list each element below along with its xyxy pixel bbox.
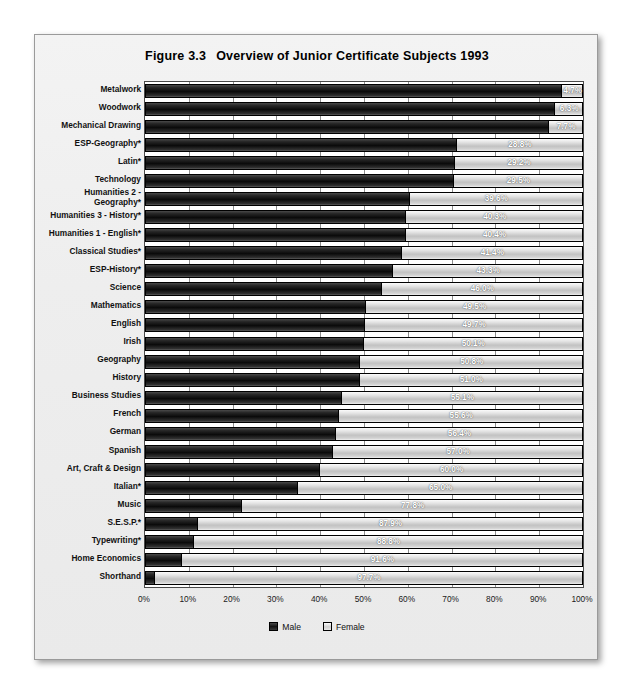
bar-segment-male[interactable] xyxy=(145,427,336,441)
bar-segment-male[interactable] xyxy=(145,156,455,170)
bar-segment-female[interactable] xyxy=(333,445,583,459)
bar-segment-male[interactable] xyxy=(145,210,406,224)
bar-segment-female[interactable] xyxy=(182,553,583,567)
bar-row[interactable]: 6.3% xyxy=(145,102,583,116)
bar-segment-male[interactable] xyxy=(145,120,549,134)
bar-segment-female[interactable] xyxy=(155,571,583,585)
bar-segment-male[interactable] xyxy=(145,481,298,495)
bar-segment-male[interactable] xyxy=(145,246,402,260)
axis-tick-label: 70% xyxy=(442,594,459,604)
bar-segment-female[interactable] xyxy=(402,246,583,260)
bar-row[interactable]: 91.6% xyxy=(145,553,583,567)
category-label: Latin* xyxy=(35,157,141,166)
bar-segment-female[interactable] xyxy=(406,210,583,224)
category-label: Classical Studies* xyxy=(35,247,141,256)
bar-row[interactable]: 7.7% xyxy=(145,120,583,134)
bar-segment-male[interactable] xyxy=(145,445,333,459)
bar-segment-male[interactable] xyxy=(145,84,562,98)
bar-segment-male[interactable] xyxy=(145,300,366,314)
bar-segment-male[interactable] xyxy=(145,318,365,332)
bar-segment-female[interactable] xyxy=(364,337,583,351)
bar-segment-male[interactable] xyxy=(145,571,155,585)
bar-segment-male[interactable] xyxy=(145,373,360,387)
bar-segment-female[interactable] xyxy=(320,463,583,477)
bar-row[interactable]: 49.5% xyxy=(145,300,583,314)
bar-row[interactable]: 88.8% xyxy=(145,535,583,549)
bar-segment-male[interactable] xyxy=(145,138,457,152)
bar-row[interactable]: 4.7% xyxy=(145,84,583,98)
bar-row[interactable]: 50.1% xyxy=(145,337,583,351)
bar-segment-male[interactable] xyxy=(145,499,242,513)
bar-row[interactable]: 77.8% xyxy=(145,499,583,513)
category-label: Business Studies xyxy=(35,391,141,400)
bar-segment-female[interactable] xyxy=(562,84,583,98)
bar-segment-female[interactable] xyxy=(360,373,583,387)
bar-row[interactable]: 87.9% xyxy=(145,517,583,531)
legend-item-male[interactable]: Male xyxy=(269,622,301,632)
bar-row[interactable]: 39.6% xyxy=(145,192,583,206)
bar-segment-male[interactable] xyxy=(145,192,410,206)
bar-segment-male[interactable] xyxy=(145,463,320,477)
bar-segment-male[interactable] xyxy=(145,174,454,188)
bar-row[interactable]: 40.3% xyxy=(145,210,583,224)
category-label: Art, Craft & Design xyxy=(35,464,141,473)
bar-segment-female[interactable] xyxy=(455,156,583,170)
bar-segment-male[interactable] xyxy=(145,228,406,242)
bar-segment-female[interactable] xyxy=(457,138,583,152)
bar-segment-male[interactable] xyxy=(145,264,393,278)
bar-segment-female[interactable] xyxy=(339,409,583,423)
bar-segment-male[interactable] xyxy=(145,535,194,549)
bar-segment-male[interactable] xyxy=(145,409,339,423)
bar-row[interactable]: 55.6% xyxy=(145,409,583,423)
axis-tick-label: 0% xyxy=(138,594,150,604)
bar-segment-female[interactable] xyxy=(342,391,583,405)
bar-segment-female[interactable] xyxy=(194,535,583,549)
bar-segment-female[interactable] xyxy=(365,318,583,332)
bar-segment-female[interactable] xyxy=(366,300,583,314)
bar-segment-female[interactable] xyxy=(198,517,583,531)
bar-row[interactable]: 29.5% xyxy=(145,174,583,188)
bar-segment-female[interactable] xyxy=(393,264,583,278)
category-label: Geography xyxy=(35,355,141,364)
bar-segment-female[interactable] xyxy=(410,192,583,206)
bar-row[interactable]: 46.0% xyxy=(145,282,583,296)
bar-segment-male[interactable] xyxy=(145,282,382,296)
bar-row[interactable]: 65.0% xyxy=(145,481,583,495)
bar-segment-female[interactable] xyxy=(360,355,583,369)
bar-segment-male[interactable] xyxy=(145,553,182,567)
bar-segment-male[interactable] xyxy=(145,337,364,351)
bar-row[interactable]: 55.1% xyxy=(145,391,583,405)
category-axis-labels: MetalworkWoodworkMechanical DrawingESP-G… xyxy=(35,81,141,588)
legend-item-female[interactable]: Female xyxy=(323,622,365,632)
bar-segment-male[interactable] xyxy=(145,391,342,405)
bar-row[interactable]: 57.0% xyxy=(145,445,583,459)
bar-segment-female[interactable] xyxy=(406,228,583,242)
bar-segment-male[interactable] xyxy=(145,102,555,116)
category-label: Shorthand xyxy=(35,572,141,581)
bar-row[interactable]: 49.7% xyxy=(145,318,583,332)
bar-row[interactable]: 51.0% xyxy=(145,373,583,387)
bar-row[interactable]: 43.3% xyxy=(145,264,583,278)
bar-row[interactable]: 97.7% xyxy=(145,571,583,585)
bar-row[interactable]: 56.4% xyxy=(145,427,583,441)
figure-card: Figure 3.3Overview of Junior Certificate… xyxy=(34,34,598,660)
bar-segment-female[interactable] xyxy=(298,481,583,495)
bar-row[interactable]: 40.4% xyxy=(145,228,583,242)
axis-tick-label: 40% xyxy=(311,594,328,604)
category-label: Spanish xyxy=(35,446,141,455)
bar-row[interactable]: 28.8% xyxy=(145,138,583,152)
axis-tick-label: 20% xyxy=(223,594,240,604)
bar-segment-female[interactable] xyxy=(242,499,583,513)
bar-segment-female[interactable] xyxy=(454,174,583,188)
bar-row[interactable]: 41.4% xyxy=(145,246,583,260)
bar-row[interactable]: 50.8% xyxy=(145,355,583,369)
bar-segment-female[interactable] xyxy=(549,120,583,134)
bar-segment-female[interactable] xyxy=(555,102,583,116)
bar-segment-male[interactable] xyxy=(145,517,198,531)
bar-row[interactable]: 60.0% xyxy=(145,463,583,477)
bar-segment-female[interactable] xyxy=(336,427,583,441)
bar-row[interactable]: 29.2% xyxy=(145,156,583,170)
bar-segment-female[interactable] xyxy=(382,282,583,296)
bar-segment-male[interactable] xyxy=(145,355,360,369)
category-label: S.E.S.P.* xyxy=(35,518,141,527)
